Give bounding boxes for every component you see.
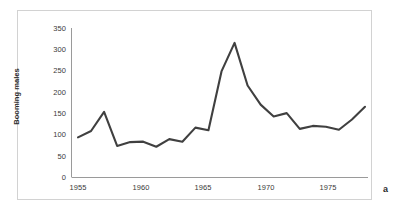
x-tick-1975: 1975 bbox=[313, 183, 343, 192]
x-tick-1960: 1960 bbox=[126, 183, 156, 192]
y-tick-50: 50 bbox=[42, 152, 66, 161]
y-tick-300: 300 bbox=[42, 45, 66, 54]
y-tick-150: 150 bbox=[42, 109, 66, 118]
y-tick-250: 250 bbox=[42, 66, 66, 75]
panel-letter-label: a bbox=[383, 184, 388, 194]
x-tick-1955: 1955 bbox=[63, 183, 93, 192]
x-tick-1965: 1965 bbox=[188, 183, 218, 192]
figure-panel: 350 300 250 200 150 100 50 0 1955 1960 1… bbox=[0, 0, 405, 216]
y-tick-350: 350 bbox=[42, 24, 66, 33]
y-tick-100: 100 bbox=[42, 130, 66, 139]
data-series-line bbox=[78, 43, 365, 147]
y-axis-title: Booming males bbox=[12, 57, 21, 137]
y-tick-200: 200 bbox=[42, 88, 66, 97]
y-tick-0: 0 bbox=[42, 173, 66, 182]
x-tick-1970: 1970 bbox=[251, 183, 281, 192]
